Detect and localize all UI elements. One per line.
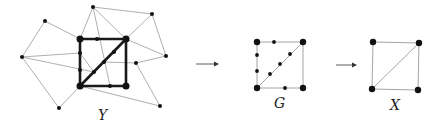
arrow-icon bbox=[336, 63, 357, 68]
figure: Y G X bbox=[0, 0, 444, 127]
graph-g: G bbox=[254, 39, 306, 111]
label-x: X bbox=[389, 97, 401, 113]
graph-y: Y bbox=[20, 5, 168, 123]
nodes bbox=[20, 5, 168, 110]
label-y: Y bbox=[98, 107, 109, 123]
graph-x: X bbox=[369, 39, 422, 113]
label-g: G bbox=[274, 95, 285, 111]
arrow-icon bbox=[196, 62, 219, 67]
